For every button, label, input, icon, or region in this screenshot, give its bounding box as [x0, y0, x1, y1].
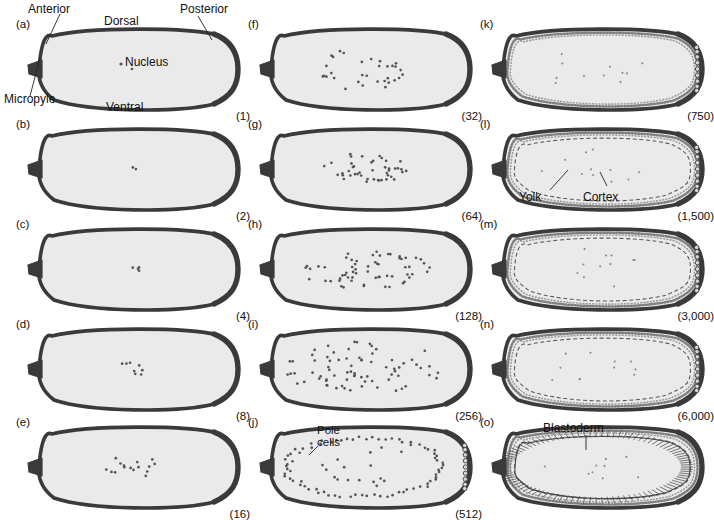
embryo-panel-d: [18, 316, 233, 416]
embryo-panel-m: [482, 216, 697, 316]
embryo-panel-n: [482, 316, 697, 416]
label-pole-cells-2: cells: [317, 436, 340, 448]
panel-label-d: (d): [16, 318, 30, 330]
embryo-panel-k: [482, 16, 697, 116]
embryo-panel-b: [18, 116, 233, 216]
embryo-panel-h: [250, 216, 465, 316]
label-pole-cells-1: Pole: [317, 424, 340, 436]
embryo-panel-j: [250, 414, 465, 514]
nuclei-count-j: (512): [430, 508, 482, 520]
panel-label-k: (k): [480, 18, 493, 30]
label-blastoderm: Blastoderm: [543, 421, 604, 435]
label-posterior: Posterior: [180, 2, 228, 16]
panel-label-f: (f): [248, 18, 259, 30]
label-nucleus: Nucleus: [125, 55, 168, 69]
panel-label-o: (o): [480, 416, 494, 428]
panel-label-m: (m): [480, 218, 497, 230]
nuclei-count-e: (16): [198, 508, 250, 520]
panel-label-j: (j): [248, 416, 258, 428]
panel-label-a: (a): [16, 18, 30, 30]
nucleus-marker-dot: [116, 59, 126, 69]
label-yolk: Yolk: [519, 190, 541, 204]
embryo-panel-g: [250, 116, 465, 216]
embryo-panel-i: [250, 316, 465, 416]
panel-label-n: (n): [480, 318, 494, 330]
embryo-panel-f: [250, 16, 465, 116]
panel-label-b: (b): [16, 118, 30, 130]
panel-label-i: (i): [248, 318, 258, 330]
label-micropyle: Micropyle: [4, 92, 55, 106]
panel-label-c: (c): [16, 218, 29, 230]
label-ventral: Ventral: [106, 100, 143, 114]
panel-label-g: (g): [248, 118, 262, 130]
embryo-panel-e: [18, 414, 233, 514]
label-anterior: Anterior: [28, 2, 70, 16]
label-dorsal: Dorsal: [104, 14, 139, 28]
panel-label-e: (e): [16, 416, 30, 428]
panel-label-h: (h): [248, 218, 262, 230]
panel-label-l: (l): [480, 118, 490, 130]
embryo-panel-c: [18, 216, 233, 316]
label-cortex: Cortex: [583, 190, 618, 204]
